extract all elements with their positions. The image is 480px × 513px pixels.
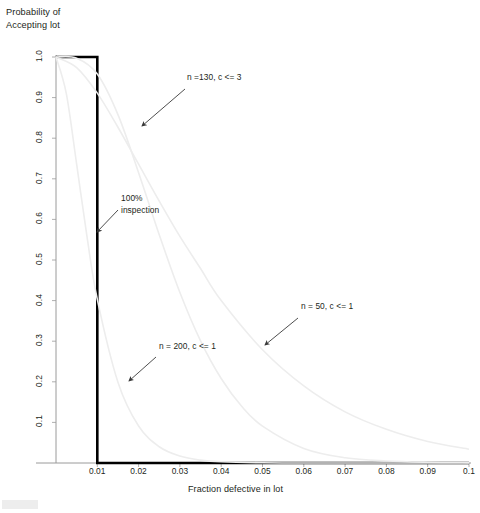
y-tick-label: 0.6: [34, 205, 44, 231]
x-tick-label: 0.07: [328, 466, 362, 476]
x-tick-label: 0.09: [411, 466, 445, 476]
annot-n130-arrow-icon: [142, 89, 185, 126]
y-tick-label: 0.7: [34, 165, 44, 191]
annot-n200-label: n = 200, c <= 1: [159, 341, 216, 353]
corner-marker: [2, 500, 38, 509]
x-tick-label: 0.01: [80, 466, 114, 476]
x-tick-label: 0.03: [163, 466, 197, 476]
curve-n-200-c-1: [56, 57, 469, 463]
y-tick-label: 0.4: [34, 287, 44, 313]
y-tick-label: 0.3: [34, 327, 44, 353]
x-axis-title: Fraction defective in lot: [0, 484, 471, 494]
annot-inspection-arrow-icon: [97, 210, 118, 232]
x-tick-label: 0.02: [122, 466, 156, 476]
y-tick-label: 0.8: [34, 124, 44, 150]
y-tick-label: 0.9: [34, 84, 44, 110]
annot-inspection-label: 100% inspection: [121, 193, 159, 216]
y-tick-label: 0.5: [34, 246, 44, 272]
curve-100-inspection: [56, 57, 469, 463]
y-tick-label: 1.0: [34, 43, 44, 69]
x-tick-label: 0.05: [246, 466, 280, 476]
y-tick-label: 0.2: [34, 368, 44, 394]
annot-n200-arrow-icon: [129, 357, 156, 381]
curve-n-130-c-3: [56, 57, 469, 463]
y-tick-marks: [52, 57, 56, 422]
data-curves: [56, 57, 469, 463]
axes: [36, 55, 471, 463]
annot-n130-label: n =130, c <= 3: [187, 72, 241, 84]
x-tick-label: 0.08: [369, 466, 403, 476]
x-tick-label: 0.1: [452, 466, 480, 476]
annot-n50-label: n = 50, c <= 1: [301, 301, 353, 313]
annotation-arrows: [97, 89, 298, 381]
x-tick-label: 0.06: [287, 466, 321, 476]
x-tick-label: 0.04: [204, 466, 238, 476]
y-tick-label: 0.1: [34, 408, 44, 434]
annot-n50-arrow-icon: [265, 318, 298, 345]
